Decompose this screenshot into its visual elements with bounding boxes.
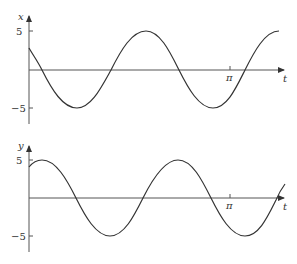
tick-label-neg5: −5 <box>11 103 26 114</box>
tick-label-pi: π <box>225 200 233 211</box>
x-axis-label: t <box>283 73 288 84</box>
tick-label-pi: π <box>225 72 233 83</box>
tick-label-5: 5 <box>16 26 22 37</box>
x-axis-label: t <box>283 201 288 212</box>
tick-label-neg5: −5 <box>11 231 26 242</box>
y-axis-label: y <box>17 140 24 151</box>
plot-y-vs-t: y 5 −5 π t <box>11 140 288 252</box>
chart-canvas: x 5 −5 π t y 5 −5 π t <box>0 0 297 264</box>
tick-label-5: 5 <box>16 155 22 166</box>
y-axis-label: x <box>18 11 24 22</box>
plot-x-vs-t: x 5 −5 π t <box>11 11 288 124</box>
